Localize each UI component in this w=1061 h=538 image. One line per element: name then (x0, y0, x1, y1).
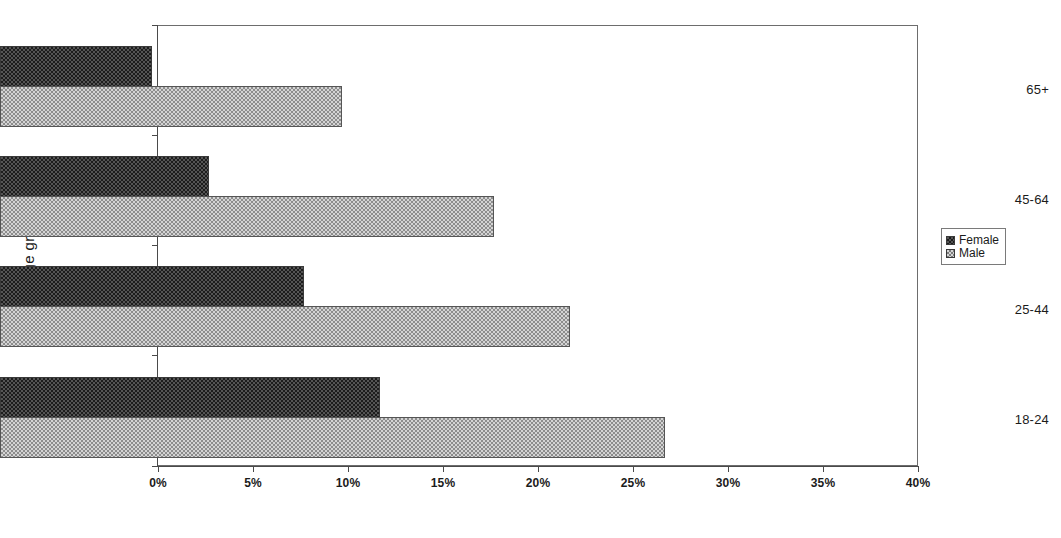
legend-item-female: Female (946, 234, 999, 246)
female-swatch-icon (946, 236, 955, 245)
legend-label-female: Female (959, 234, 999, 246)
x-axis-label: 10% (336, 476, 361, 490)
legend-label-male: Male (959, 247, 985, 259)
y-axis-label-65-plus: 65+ (911, 82, 1061, 97)
x-axis-label: 5% (244, 476, 262, 490)
legend-item-male: Male (946, 247, 999, 259)
bar-male-25-44 (0, 306, 570, 347)
x-axis-tick (158, 466, 159, 472)
x-axis-label: 0% (149, 476, 167, 490)
x-axis-tick (918, 466, 919, 472)
x-axis-label: 30% (716, 476, 741, 490)
x-axis-label: 25% (621, 476, 646, 490)
x-axis-tick (348, 466, 349, 472)
bar-female-65-plus (0, 46, 152, 87)
bar-female-45-64 (0, 156, 209, 197)
y-axis-label-25-44: 25-44 (911, 302, 1061, 317)
x-axis-label: 20% (526, 476, 551, 490)
bar-male-18-24 (0, 417, 665, 458)
x-axis-label: 15% (431, 476, 456, 490)
bar-female-25-44 (0, 266, 304, 307)
y-axis-label-18-24: 18-24 (911, 412, 1061, 427)
male-swatch-icon (946, 249, 955, 258)
x-axis-tick (538, 466, 539, 472)
bar-female-18-24 (0, 377, 380, 418)
x-axis-tick (443, 466, 444, 472)
x-axis-tick (253, 466, 254, 472)
bar-male-45-64 (0, 196, 494, 237)
bar-chart: Age group 65+ 45-64 25-44 18-24 0%5%10%1… (0, 0, 1061, 538)
x-axis-tick (823, 466, 824, 472)
legend: Female Male (941, 228, 1006, 265)
x-axis-label: 35% (811, 476, 836, 490)
x-axis-tick (633, 466, 634, 472)
x-axis-label: 40% (906, 476, 931, 490)
bar-male-65-plus (0, 86, 342, 127)
y-axis-label-45-64: 45-64 (911, 192, 1061, 207)
x-axis-tick (728, 466, 729, 472)
